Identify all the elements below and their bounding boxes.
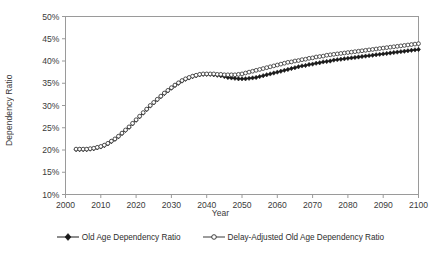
series-marker (300, 64, 304, 68)
legend-label: Old Age Dependency Ratio (82, 233, 181, 242)
series-marker (282, 68, 286, 72)
series-marker (402, 49, 406, 53)
series-marker (170, 86, 174, 90)
series-marker (261, 73, 265, 77)
series-marker (356, 55, 360, 59)
series-marker (268, 72, 272, 76)
series-marker (314, 61, 318, 65)
series-marker (346, 56, 350, 60)
series-marker (307, 62, 311, 66)
y-tick-label: 20% (42, 145, 60, 155)
series-marker (275, 70, 279, 74)
series-marker (289, 66, 293, 70)
series-marker (155, 97, 159, 101)
series-marker (406, 49, 410, 53)
series-marker (159, 94, 163, 98)
data-series (74, 42, 420, 151)
series-marker (385, 51, 389, 55)
series-marker (177, 81, 181, 85)
series-line (76, 49, 418, 149)
series-marker (247, 76, 251, 80)
y-tick-label: 15% (42, 167, 60, 177)
series-marker (367, 53, 371, 57)
legend-label: Delay-Adjusted Old Age Dependency Ratio (228, 233, 385, 242)
series-marker (106, 141, 110, 145)
series-marker (325, 59, 329, 63)
legend-marker-open-circle-icon (203, 232, 225, 242)
series-marker (364, 54, 368, 58)
y-tick-label: 30% (42, 101, 60, 111)
series-marker (392, 50, 396, 54)
y-axis-title: Dependency Ratio (2, 50, 16, 170)
series-marker (304, 63, 308, 67)
series-marker (395, 50, 399, 54)
series-marker (138, 114, 142, 118)
series-marker (162, 91, 166, 95)
series-marker (124, 128, 128, 132)
chart-figure: 10%15%20%25%30%35%40%45%50%2000201020202… (0, 0, 441, 261)
y-tick-label: 10% (42, 190, 60, 200)
series-marker (374, 53, 378, 57)
series-marker (127, 125, 131, 129)
series-marker (378, 52, 382, 56)
series-marker (131, 121, 135, 125)
series-line (76, 44, 418, 149)
series-marker (173, 83, 177, 87)
y-tick-label: 35% (42, 78, 60, 88)
y-tick-label: 25% (42, 123, 60, 133)
series-marker (279, 69, 283, 73)
x-axis-title: Year (0, 208, 441, 218)
series-marker (332, 58, 336, 62)
series-marker (113, 137, 117, 141)
data-series (74, 47, 420, 152)
series-marker (148, 104, 152, 108)
series-marker (265, 73, 269, 77)
series-marker (328, 59, 332, 63)
y-tick-label: 45% (42, 34, 60, 44)
legend-marker-filled-diamond-icon (57, 232, 79, 242)
legend-item-old-age-dependency-ratio[interactable]: Old Age Dependency Ratio (57, 232, 181, 242)
series-marker (145, 107, 149, 111)
series-marker (152, 100, 156, 104)
series-marker (335, 57, 339, 61)
series-marker (339, 57, 343, 61)
plot-frame (66, 17, 419, 195)
series-marker (251, 76, 255, 80)
series-marker (120, 131, 124, 135)
series-marker (399, 49, 403, 53)
series-marker (413, 48, 417, 52)
series-marker (321, 60, 325, 64)
series-marker (353, 55, 357, 59)
series-marker (258, 74, 262, 78)
series-marker (272, 71, 276, 75)
series-marker (417, 47, 421, 51)
chart-canvas: 10%15%20%25%30%35%40%45%50%2000201020202… (0, 0, 441, 261)
series-marker (342, 57, 346, 61)
series-marker (311, 62, 315, 66)
series-marker (318, 61, 322, 65)
series-marker (381, 52, 385, 56)
series-marker (254, 75, 258, 79)
series-marker (360, 54, 364, 58)
y-tick-label: 40% (42, 56, 60, 66)
chart-legend: Old Age Dependency Ratio Delay-Adjusted … (0, 232, 441, 242)
y-tick-label: 50% (42, 12, 60, 22)
series-marker (293, 65, 297, 69)
series-marker (388, 51, 392, 55)
series-marker (417, 42, 421, 46)
series-marker (296, 65, 300, 69)
legend-item-delay-adjusted-old-age-dependency-ratio[interactable]: Delay-Adjusted Old Age Dependency Ratio (203, 232, 385, 242)
series-marker (134, 118, 138, 122)
series-marker (286, 67, 290, 71)
series-marker (141, 111, 145, 115)
series-marker (349, 56, 353, 60)
series-marker (109, 139, 113, 143)
series-marker (244, 77, 248, 81)
series-marker (117, 134, 121, 138)
series-marker (409, 48, 413, 52)
series-marker (371, 53, 375, 57)
series-marker (166, 88, 170, 92)
